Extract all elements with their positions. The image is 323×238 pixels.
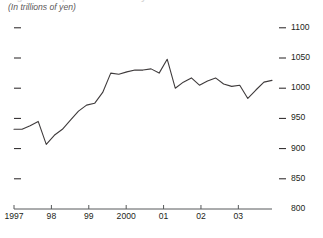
x-axis-tick-label: 1997 <box>0 212 34 221</box>
plot-svg <box>0 0 323 238</box>
y-axis-tick-label: 850 <box>291 174 319 183</box>
y-axis-tick-label: 800 <box>291 204 319 213</box>
x-axis-tick-label: 01 <box>144 212 184 221</box>
x-axis-ticks <box>14 205 238 209</box>
data-series-line <box>14 59 272 144</box>
plot-area: 800850900950100010501100 199798992000010… <box>0 0 323 238</box>
chart-figure: Figure 1. Japan: Broad Money Stock (In t… <box>0 0 323 238</box>
x-axis-tick-label: 98 <box>31 212 71 221</box>
x-axis-tick-label: 2000 <box>106 212 146 221</box>
x-axis-tick-label: 99 <box>69 212 109 221</box>
right-axis-ticks <box>279 28 286 179</box>
y-axis-tick-label: 1100 <box>291 23 319 32</box>
x-axis-tick-label: 02 <box>181 212 221 221</box>
y-axis-tick-label: 950 <box>291 113 319 122</box>
x-axis-tick-label: 03 <box>218 212 258 221</box>
left-axis-ticks <box>14 28 21 179</box>
y-axis-tick-label: 1050 <box>291 53 319 62</box>
y-axis-tick-label: 900 <box>291 144 319 153</box>
y-axis-tick-label: 1000 <box>291 83 319 92</box>
